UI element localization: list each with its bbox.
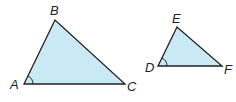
triangle-def: D E F — [145, 11, 233, 77]
vertex-label-e: E — [172, 11, 181, 26]
vertex-label-f: F — [224, 62, 233, 77]
triangle-abc-shape — [24, 20, 125, 84]
vertex-label-b: B — [50, 3, 59, 18]
similar-triangles-diagram: A B C D E F — [0, 0, 236, 102]
vertex-label-d: D — [145, 60, 154, 75]
vertex-label-c: C — [127, 79, 137, 94]
triangle-abc: A B C — [9, 3, 137, 94]
vertex-label-a: A — [9, 77, 19, 92]
triangle-def-shape — [158, 27, 222, 66]
